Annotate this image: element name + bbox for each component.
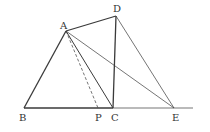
segment-b-a [24,31,66,108]
diagram-svg: ADBPCE [0,0,210,132]
segment-d-e [116,16,174,108]
segments [24,16,193,108]
label-point-a: A [59,20,68,31]
segment-d-c [113,16,116,108]
label-point-e: E [172,112,179,123]
label-point-d: D [113,3,121,14]
label-point-b: B [19,112,26,123]
segment-a-c [66,31,113,108]
label-point-p: P [95,112,102,123]
segment-a-d [66,16,116,31]
geometry-diagram: ADBPCE [0,0,210,132]
label-point-c: C [111,112,119,123]
